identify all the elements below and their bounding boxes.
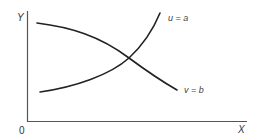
curve-v-label: v = b (184, 86, 204, 95)
y-axis-label: Y (17, 13, 24, 23)
curve-v-equals-b (37, 23, 177, 90)
curve-u-label: u = a (168, 14, 188, 23)
diagram-canvas (0, 0, 261, 140)
x-axis-label: X (238, 125, 245, 135)
curve-u-equals-a (40, 13, 160, 92)
origin-label: 0 (19, 126, 25, 136)
